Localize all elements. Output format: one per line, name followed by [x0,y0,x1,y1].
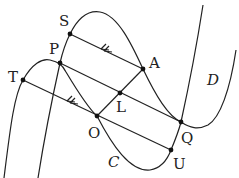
point-a [141,67,146,72]
label-a: A [149,56,160,71]
label-curve-c: C [108,155,119,170]
label-u: U [173,157,186,172]
label-o: O [88,126,100,141]
point-t [21,78,26,83]
point-q [179,120,184,125]
curve-d [38,12,236,178]
diagram: S P T A L O Q U C D [0,0,239,178]
point-l [118,91,123,96]
arrow-icon [101,44,112,52]
point-p [58,61,63,66]
label-s: S [59,14,69,29]
label-q: Q [181,131,193,146]
arrow-icon [67,96,78,104]
curve-c [4,5,203,178]
label-t: T [8,70,18,85]
label-l: L [116,100,126,115]
point-u [169,148,174,153]
label-curve-d: D [207,73,219,88]
diagram-svg [0,0,239,178]
point-o [95,114,100,119]
point-s [68,32,73,37]
label-p: P [49,42,59,57]
